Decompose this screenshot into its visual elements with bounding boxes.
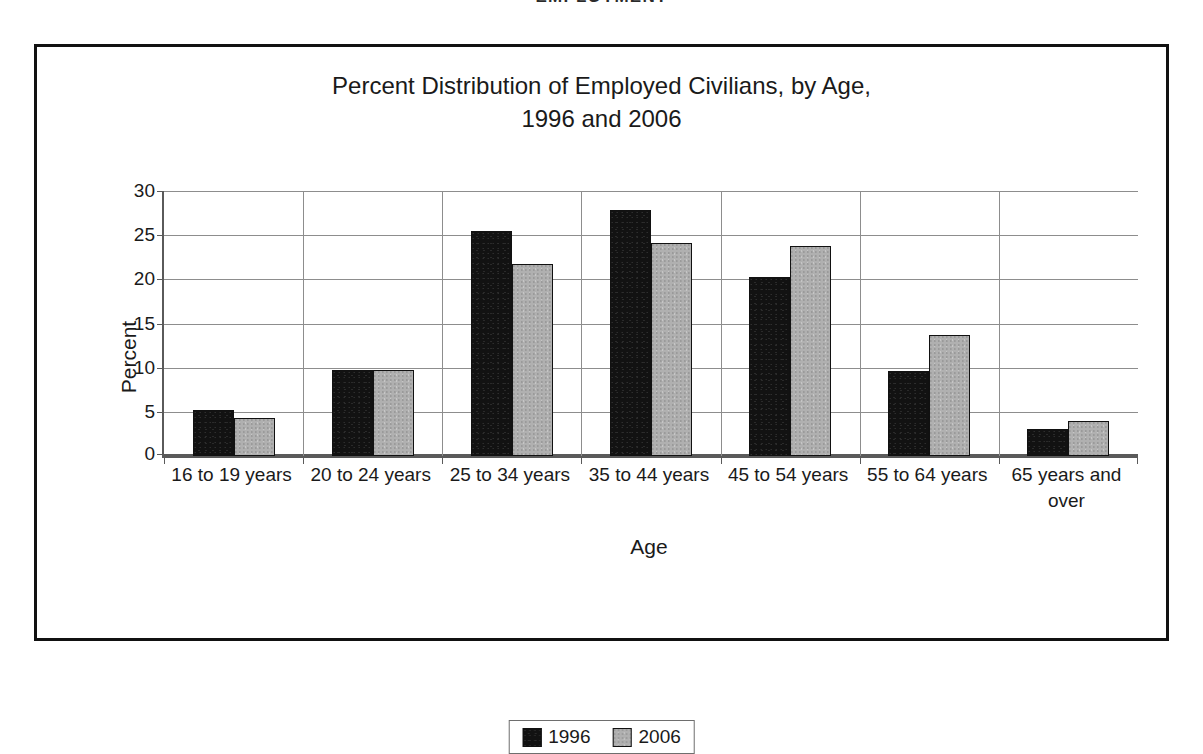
bar-1996-25-to-34-years[interactable] [471,231,512,456]
bar-2006-55-to-64-years[interactable] [929,335,970,456]
chart-legend: 19962006 [508,720,695,754]
bar-group [860,191,999,456]
legend-item-1996[interactable]: 1996 [522,726,590,748]
bar-2006-25-to-34-years[interactable] [512,264,553,456]
bar-1996-16-to-19-years[interactable] [193,410,234,456]
bar-2006-45-to-54-years[interactable] [790,246,831,456]
x-axis-tick-labels: 16 to 19 years20 to 24 years25 to 34 yea… [162,462,1136,514]
bar-1996-35-to-44-years[interactable] [610,210,651,456]
legend-label-2006: 2006 [639,726,681,748]
y-tick-mark-25 [157,235,164,236]
x-axis-category-label: 65 years and over [997,462,1136,514]
legend-swatch-2006 [613,728,632,747]
bar-1996-55-to-64-years[interactable] [888,371,929,456]
y-tick-label-5: 5 [144,400,155,422]
x-axis-category-label: 20 to 24 years [301,462,440,514]
bar-2006-20-to-24-years[interactable] [373,370,414,456]
legend-item-2006[interactable]: 2006 [613,726,681,748]
y-tick-mark-15 [157,324,164,325]
y-tick-label-10: 10 [134,356,155,378]
bar-1996-65-years-and-over[interactable] [1027,429,1068,456]
x-axis-category-label: 25 to 34 years [440,462,579,514]
bar-group [721,191,860,456]
legend-label-1996: 1996 [548,726,590,748]
bar-groups [164,191,1138,456]
x-axis-category-label: 55 to 64 years [858,462,997,514]
y-tick-label-15: 15 [134,312,155,334]
chart-title-line-2: 1996 and 2006 [222,102,982,135]
x-tick-mark [1137,456,1138,464]
figure-frame: Percent Distribution of Employed Civilia… [34,44,1169,641]
y-tick-mark-0 [157,454,164,455]
chart-title-line-1: Percent Distribution of Employed Civilia… [222,69,982,102]
plot-area: 051015202530 [162,191,1138,458]
y-tick-label-30: 30 [134,180,155,202]
y-tick-mark-20 [157,279,164,280]
x-axis-category-label: 45 to 54 years [719,462,858,514]
bar-1996-20-to-24-years[interactable] [332,370,373,456]
x-axis-title: Age [162,535,1136,559]
bar-group [164,191,303,456]
plot-area-wrapper: Percent 051015202530 16 to 19 years20 to… [37,167,1166,567]
x-axis-category-label: 16 to 19 years [162,462,301,514]
bar-group [303,191,442,456]
legend-swatch-1996 [522,728,541,747]
bar-group [999,191,1138,456]
document-running-heading: EMPLOYMENT [0,0,1203,7]
chart-title: Percent Distribution of Employed Civilia… [222,69,982,135]
y-tick-label-25: 25 [134,224,155,246]
bar-2006-65-years-and-over[interactable] [1068,421,1109,456]
bar-group [442,191,581,456]
y-tick-mark-30 [157,191,164,192]
x-axis-category-label: 35 to 44 years [579,462,718,514]
y-tick-label-20: 20 [134,268,155,290]
bar-2006-35-to-44-years[interactable] [651,243,692,456]
bar-group [581,191,720,456]
bar-1996-45-to-54-years[interactable] [749,277,790,456]
bar-2006-16-to-19-years[interactable] [234,418,275,456]
y-tick-mark-5 [157,412,164,413]
y-tick-mark-10 [157,368,164,369]
y-tick-label-0: 0 [144,443,155,465]
